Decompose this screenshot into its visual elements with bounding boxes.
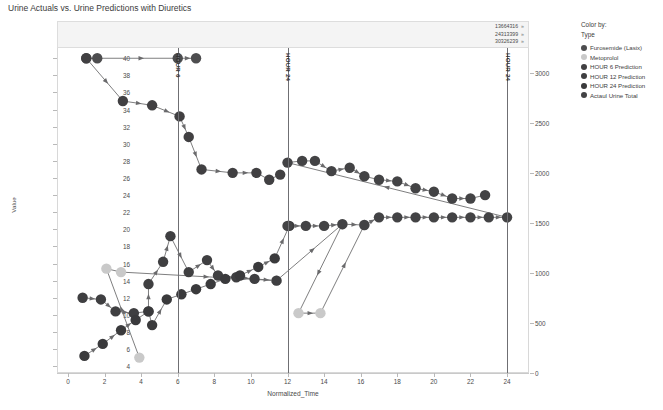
header-id-list: 13664316»24313399»30326239» (495, 23, 524, 46)
data-point[interactable] (275, 169, 285, 179)
data-point[interactable] (337, 219, 347, 229)
data-point[interactable] (191, 53, 201, 63)
series-link-arrow (280, 237, 286, 244)
data-point[interactable] (134, 352, 144, 362)
data-point[interactable] (196, 164, 206, 174)
data-point[interactable] (315, 308, 325, 318)
data-point[interactable] (174, 111, 184, 121)
legend-item[interactable]: HOUR 24 Prediction (581, 81, 661, 91)
data-point[interactable] (264, 175, 274, 185)
series-link-arrow (440, 192, 447, 198)
data-point[interactable] (465, 193, 475, 203)
legend-swatch-icon (581, 92, 587, 98)
series-link-arrow (203, 274, 209, 279)
data-point[interactable] (345, 163, 355, 173)
data-point[interactable] (143, 279, 153, 289)
data-point[interactable] (301, 221, 311, 231)
y2-axis-tick-mark (530, 123, 534, 124)
header-id-item: 30326239» (495, 38, 524, 46)
data-point[interactable] (410, 212, 420, 222)
reference-line (178, 48, 179, 373)
x-axis-tick-mark (397, 373, 398, 377)
data-point[interactable] (270, 253, 280, 263)
series-link-arrow (308, 311, 314, 315)
legend-item[interactable]: Furosemide (Lasix) (581, 43, 661, 53)
data-point[interactable] (101, 263, 111, 273)
data-point[interactable] (205, 279, 215, 289)
data-point[interactable] (293, 308, 303, 318)
data-point[interactable] (147, 320, 157, 330)
data-point[interactable] (118, 96, 128, 106)
header-id-item: 24313399» (495, 31, 524, 39)
series-link-arrow (185, 56, 191, 60)
legend-swatch-icon (581, 64, 587, 70)
legend-item-label: HOUR 6 Prediction (590, 63, 642, 70)
x-axis-tick-label: 16 (357, 378, 364, 385)
y-axis-label: Value (10, 197, 17, 212)
x-axis-line (57, 373, 529, 374)
data-point[interactable] (227, 168, 237, 178)
data-point[interactable] (162, 294, 172, 304)
data-point[interactable] (447, 193, 457, 203)
data-point[interactable] (253, 262, 263, 272)
series-link-arrow (478, 215, 484, 219)
data-point[interactable] (480, 190, 490, 200)
data-point[interactable] (392, 176, 402, 186)
data-point[interactable] (310, 156, 320, 166)
data-point[interactable] (184, 267, 194, 277)
data-point[interactable] (429, 212, 439, 222)
data-point[interactable] (319, 221, 329, 231)
x-axis-tick-label: 10 (247, 378, 254, 385)
data-point[interactable] (165, 231, 175, 241)
data-point[interactable] (79, 351, 89, 361)
data-point[interactable] (374, 212, 384, 222)
data-point[interactable] (271, 275, 281, 285)
data-point[interactable] (81, 53, 91, 63)
legend-title-colorby: Color by: (581, 20, 661, 30)
data-point[interactable] (92, 53, 102, 63)
data-point[interactable] (297, 156, 307, 166)
data-point[interactable] (465, 212, 475, 222)
data-point[interactable] (249, 274, 259, 284)
data-point[interactable] (116, 325, 126, 335)
data-point[interactable] (130, 315, 140, 325)
data-point[interactable] (220, 274, 230, 284)
data-point[interactable] (447, 212, 457, 222)
data-point[interactable] (374, 175, 384, 185)
data-point[interactable] (116, 267, 126, 277)
data-point[interactable] (96, 294, 106, 304)
data-point[interactable] (158, 257, 168, 267)
data-point[interactable] (429, 186, 439, 196)
series-link-arrow (243, 171, 249, 175)
x-axis-tick-label: 2 (103, 378, 107, 385)
data-point[interactable] (147, 100, 157, 110)
data-point[interactable] (484, 212, 494, 222)
data-point[interactable] (98, 339, 108, 349)
data-point[interactable] (110, 306, 120, 316)
legend-item[interactable]: Actaul Urine Total (581, 90, 661, 100)
data-point[interactable] (392, 212, 402, 222)
data-point[interactable] (326, 166, 336, 176)
data-point[interactable] (359, 220, 369, 230)
data-point[interactable] (202, 255, 212, 265)
data-point[interactable] (143, 306, 153, 316)
data-point[interactable] (235, 270, 245, 280)
x-axis-tick-mark (507, 373, 508, 377)
data-point[interactable] (359, 171, 369, 181)
legend-item-label: Actaul Urine Total (590, 92, 638, 99)
plot-area: HOUR 6HOUR 24HOUR 24 (57, 48, 529, 373)
x-axis-tick-label: 8 (213, 378, 217, 385)
data-point[interactable] (251, 168, 261, 178)
legend-item[interactable]: HOUR 12 Prediction (581, 71, 661, 81)
data-point[interactable] (184, 132, 194, 142)
reference-line-label: HOUR 24 (505, 53, 512, 81)
legend-item[interactable]: Metoprolol (581, 52, 661, 62)
legend-panel: Color by: Type Furosemide (Lasix)Metopro… (581, 20, 661, 100)
x-axis-tick-mark (324, 373, 325, 377)
data-point[interactable] (191, 284, 201, 294)
series-link-arrow (146, 294, 150, 300)
legend-item[interactable]: HOUR 6 Prediction (581, 62, 661, 72)
data-point[interactable] (77, 293, 87, 303)
data-point[interactable] (410, 183, 420, 193)
reference-line-label: HOUR 24 (285, 53, 292, 81)
